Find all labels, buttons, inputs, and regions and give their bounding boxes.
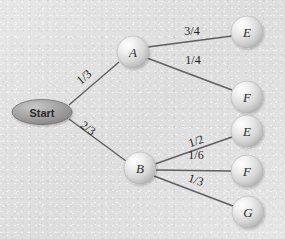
edge-start-a <box>69 62 119 105</box>
node-g-label: G <box>243 205 253 220</box>
node-start-label: Start <box>29 107 54 119</box>
node-a[interactable]: A <box>117 36 149 68</box>
node-f-bottom[interactable]: F <box>231 155 263 187</box>
edge-label-a-e: 3/4 <box>184 24 199 38</box>
node-a-label: A <box>128 45 137 60</box>
edge-b-f <box>156 170 232 171</box>
probability-tree-svg: Start A B E F E <box>0 0 285 239</box>
edge-label-start-b: 2/3 <box>78 118 99 138</box>
edges-group <box>69 36 233 206</box>
edge-label-b-g: 1/3 <box>186 171 205 189</box>
node-b-label: B <box>136 161 144 176</box>
node-b[interactable]: B <box>124 152 156 184</box>
node-e-bottom-label: E <box>242 124 251 139</box>
edge-label-b-f: 1/6 <box>188 148 203 162</box>
nodes-group: Start A B E F E <box>12 16 264 228</box>
edge-label-a-f: 1/4 <box>185 53 200 67</box>
node-e-bottom[interactable]: E <box>231 115 263 147</box>
edge-label-start-a: 1/3 <box>74 67 95 88</box>
node-e-top-label: E <box>242 25 251 40</box>
node-e-top[interactable]: E <box>231 16 263 48</box>
node-g[interactable]: G <box>232 196 264 228</box>
node-start[interactable]: Start <box>12 100 72 125</box>
node-f-top-label: F <box>242 90 252 105</box>
node-f-bottom-label: F <box>242 164 252 179</box>
node-f-top[interactable]: F <box>231 81 263 113</box>
diagram-canvas: Start A B E F E <box>0 0 285 239</box>
